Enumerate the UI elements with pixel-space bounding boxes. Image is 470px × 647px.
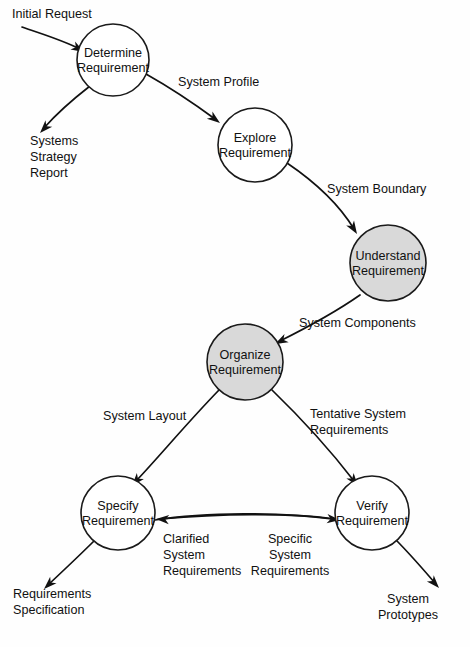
external-label-line: Strategy (30, 150, 78, 164)
flow-diagram-svg: DetermineRequirementExploreRequirementUn… (0, 0, 470, 647)
edge-specify-to-requirements-specification (41, 540, 95, 592)
node-label-line: Understand (355, 250, 420, 264)
edge-verify-to-system-prototypes (396, 540, 442, 591)
flow-label-system-layout: System Layout (103, 409, 187, 423)
edge-organize-to-verify (272, 390, 362, 489)
flow-label-system-profile: System Profile (178, 75, 259, 89)
node-label-line: Verify (356, 500, 388, 514)
flow-label-line: Requirements (251, 564, 329, 578)
process-node-understand[interactable]: UnderstandRequirement (350, 225, 426, 301)
node-label-line: Requirement (82, 515, 155, 529)
node-label-line: Requirement (352, 265, 425, 279)
flow-label-tentative-system-requirements: Tentative SystemRequirements (310, 407, 406, 437)
diagram-canvas: DetermineRequirementExploreRequirementUn… (0, 0, 470, 647)
node-label-line: Requirement (209, 364, 282, 378)
node-label-line: Requirement (219, 147, 292, 161)
edge-organize-to-specify (128, 390, 219, 489)
external-label-line: Systems (30, 134, 78, 148)
arrow-head-icon (427, 575, 443, 591)
process-node-specify[interactable]: SpecifyRequirement (81, 476, 155, 550)
nodes-layer: DetermineRequirementExploreRequirementUn… (77, 24, 426, 550)
arrow-head-icon (346, 221, 361, 237)
process-node-determine[interactable]: DetermineRequirement (77, 24, 150, 96)
node-label-line: Requirement (77, 62, 150, 76)
external-label-line: System (387, 592, 429, 606)
external-label-requirements-specification: RequirementsSpecification (13, 587, 91, 617)
node-label-line: Determine (84, 47, 142, 61)
process-node-organize[interactable]: OrganizeRequirement (207, 324, 283, 400)
edge-determine-to-systems-strategy-report (37, 86, 90, 136)
node-label-line: Explore (234, 132, 277, 146)
edge-explore-to-understand (287, 163, 361, 236)
flow-label-line: System Profile (178, 75, 259, 89)
external-label-systems-strategy-report: SystemsStrategyReport (30, 134, 78, 180)
node-label: DetermineRequirement (77, 47, 150, 76)
flow-label-line: System Boundary (327, 182, 427, 196)
edge-line (396, 540, 435, 583)
external-label-line: Initial Request (12, 7, 92, 21)
flow-label-line: Requirements (163, 564, 241, 578)
external-label-initial-request: Initial Request (12, 7, 92, 21)
flow-label-line: System (269, 548, 311, 562)
edge-initial-request-to-determine (22, 27, 86, 56)
node-label-line: Requirement (336, 515, 409, 529)
external-label-line: Report (30, 166, 68, 180)
flow-label-line: Specific (268, 532, 312, 546)
external-label-line: Requirements (13, 587, 91, 601)
flow-label-line: System Layout (103, 409, 187, 423)
flow-label-system-components: System Components (299, 316, 416, 330)
flow-label-system-boundary: System Boundary (327, 182, 427, 196)
edge-line (22, 27, 80, 49)
flow-label-line: Requirements (310, 423, 388, 437)
edge-line (44, 86, 90, 128)
flow-label-specific-system-requirements: SpecificSystemRequirements (251, 532, 329, 578)
external-label-line: Prototypes (378, 608, 438, 622)
edge-line (136, 390, 219, 481)
node-label: UnderstandRequirement (352, 250, 425, 279)
flow-label-line: Tentative System (310, 407, 406, 421)
flow-label-clarified-system-requirements: ClarifiedSystemRequirements (163, 532, 241, 578)
flow-label-line: Clarified (163, 532, 209, 546)
edge-line (48, 540, 95, 585)
external-label-system-prototypes: SystemPrototypes (378, 592, 438, 622)
edge-line (287, 163, 354, 229)
process-node-verify[interactable]: VerifyRequirement (335, 476, 409, 550)
process-node-explore[interactable]: ExploreRequirement (218, 108, 292, 182)
flow-label-line: System (163, 548, 205, 562)
flow-label-line: System Components (299, 316, 416, 330)
external-label-line: Specification (13, 603, 84, 617)
node-label-line: Specify (97, 500, 139, 514)
node-label-line: Organize (219, 349, 270, 363)
